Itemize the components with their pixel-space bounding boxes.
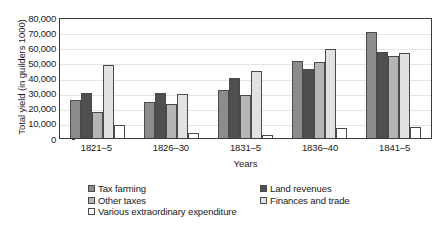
- bar[interactable]: [81, 93, 92, 138]
- bar-group: [357, 19, 431, 138]
- legend-label: Land revenues: [270, 183, 332, 194]
- legend-row: Various extraordinary expenditure: [88, 206, 418, 218]
- legend-label: Tax farming: [98, 183, 146, 194]
- bar[interactable]: [292, 61, 303, 138]
- bar[interactable]: [70, 100, 81, 138]
- bar[interactable]: [303, 69, 314, 138]
- bar[interactable]: [103, 65, 114, 138]
- bar-chart-figure: Total yield (in guilders 1000) 80,00070,…: [0, 0, 440, 230]
- bar[interactable]: [314, 62, 325, 138]
- bar-group: [283, 19, 357, 138]
- legend-row: Other taxesFinances and trade: [88, 195, 418, 207]
- legend-item[interactable]: Tax farming: [88, 183, 260, 194]
- bar[interactable]: [229, 78, 240, 139]
- y-tick-label: 70,000: [16, 29, 56, 39]
- bar[interactable]: [240, 95, 251, 138]
- bar[interactable]: [399, 53, 410, 138]
- plot-area: [59, 18, 432, 139]
- y-tick-label: 30,000: [16, 89, 56, 99]
- y-tick-label: 10,000: [16, 119, 56, 129]
- bar[interactable]: [155, 93, 166, 138]
- y-axis-tick-labels: 80,00070,00060,00050,00040,00030,00020,0…: [16, 14, 56, 138]
- bar[interactable]: [188, 133, 199, 138]
- legend-row: Tax farmingLand revenues: [88, 183, 418, 195]
- bar-group: [134, 19, 208, 138]
- x-tick-label: 1841–5: [357, 142, 432, 153]
- bar-group: [60, 19, 134, 138]
- x-axis-title: Years: [59, 158, 432, 169]
- bar-group: [208, 19, 282, 138]
- legend-item[interactable]: Other taxes: [88, 195, 260, 206]
- legend-swatch-icon: [88, 197, 95, 204]
- y-tick-label: 20,000: [16, 104, 56, 114]
- bar[interactable]: [92, 112, 103, 138]
- y-tick-mark: [72, 139, 75, 140]
- legend-swatch-icon: [260, 197, 267, 204]
- legend-swatch-icon: [88, 185, 95, 192]
- y-tick-label: 0: [16, 135, 56, 145]
- legend-swatch-icon: [260, 185, 267, 192]
- bar[interactable]: [218, 90, 229, 138]
- bar[interactable]: [114, 125, 125, 138]
- bar-groups: [60, 19, 431, 138]
- bar[interactable]: [336, 128, 347, 138]
- y-tick-label: 80,000: [16, 14, 56, 24]
- bar[interactable]: [325, 49, 336, 138]
- y-tick-label: 60,000: [16, 44, 56, 54]
- bar[interactable]: [262, 135, 273, 138]
- y-tick-label: 50,000: [16, 59, 56, 69]
- bar[interactable]: [410, 127, 421, 138]
- x-tick-label: 1821–5: [59, 142, 134, 153]
- chart-legend: Tax farmingLand revenuesOther taxesFinan…: [88, 183, 418, 218]
- bar[interactable]: [388, 56, 399, 138]
- bar[interactable]: [366, 32, 377, 138]
- legend-label: Various extraordinary expenditure: [98, 206, 237, 217]
- legend-item[interactable]: Finances and trade: [260, 195, 350, 206]
- legend-item[interactable]: Land revenues: [260, 183, 332, 194]
- bar[interactable]: [166, 104, 177, 138]
- bar[interactable]: [251, 71, 262, 138]
- x-tick-label: 1836–40: [283, 142, 358, 153]
- x-tick-label: 1826–30: [134, 142, 209, 153]
- bar[interactable]: [144, 102, 155, 138]
- legend-swatch-icon: [88, 208, 95, 215]
- y-tick-label: 40,000: [16, 74, 56, 84]
- bar[interactable]: [177, 94, 188, 138]
- bar[interactable]: [377, 52, 388, 138]
- legend-label: Other taxes: [98, 195, 146, 206]
- x-tick-label: 1831–5: [208, 142, 283, 153]
- legend-label: Finances and trade: [270, 195, 350, 206]
- x-axis-tick-labels: 1821–51826–301831–51836–401841–5: [59, 142, 432, 153]
- legend-item[interactable]: Various extraordinary expenditure: [88, 206, 237, 217]
